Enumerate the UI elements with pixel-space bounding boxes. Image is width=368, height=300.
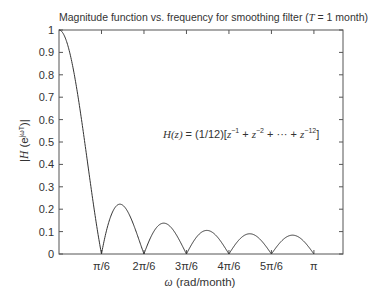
y-tick-label: 0.6 bbox=[39, 114, 54, 126]
anno-plus: + bbox=[239, 128, 252, 140]
y-axis-label: |H (ejωT)| bbox=[18, 122, 31, 162]
magnitude-curve bbox=[59, 30, 314, 254]
y-tick-label: 1 bbox=[48, 24, 54, 36]
x-tick-label: π/6 bbox=[93, 260, 110, 272]
ylabel-post: )| bbox=[18, 119, 30, 126]
x-tick-label: π bbox=[310, 260, 318, 272]
xlabel-rest: (rad/month) bbox=[173, 276, 236, 288]
x-tick-marks bbox=[101, 30, 313, 254]
anno-e1: −1 bbox=[231, 127, 239, 134]
anno-dots: + ··· + bbox=[264, 128, 300, 140]
ylabel-pre: | bbox=[18, 159, 30, 162]
y-tick-label: 0.7 bbox=[39, 91, 54, 103]
y-tick-label: 0.5 bbox=[39, 136, 54, 148]
y-tick-label: 0.8 bbox=[39, 69, 54, 81]
ylabel-mid: (e bbox=[18, 137, 30, 150]
ylabel-var: H bbox=[18, 151, 30, 159]
x-axis-label: ω (rad/month) bbox=[165, 276, 236, 288]
y-tick-label: 0.1 bbox=[39, 226, 54, 238]
ylabel-sup: jωT bbox=[18, 126, 25, 137]
anno-e2: −2 bbox=[256, 127, 264, 134]
x-tick-label: 2π/6 bbox=[133, 260, 156, 272]
y-tick-label: 0.2 bbox=[39, 203, 54, 215]
y-tick-label: 0.9 bbox=[39, 46, 54, 58]
x-tick-label: 4π/6 bbox=[217, 260, 240, 272]
anno-rhs: = (1/12)[ bbox=[183, 128, 227, 140]
axes-box bbox=[59, 30, 343, 254]
x-tick-label: 5π/6 bbox=[260, 260, 283, 272]
y-tick-label: 0 bbox=[48, 248, 54, 260]
y-tick-label: 0.3 bbox=[39, 181, 54, 193]
transfer-function-annotation: H(z) = (1/12)[z−1 + z−2 + ··· + z−12] bbox=[163, 127, 319, 140]
xlabel-var: ω bbox=[165, 276, 173, 288]
anno-e12: −12 bbox=[304, 127, 316, 134]
anno-lhs: H(z) bbox=[163, 128, 183, 140]
x-tick-label: 3π/6 bbox=[175, 260, 198, 272]
anno-close: ] bbox=[316, 128, 319, 140]
y-tick-label: 0.4 bbox=[39, 158, 54, 170]
y-tick-marks bbox=[59, 30, 343, 254]
